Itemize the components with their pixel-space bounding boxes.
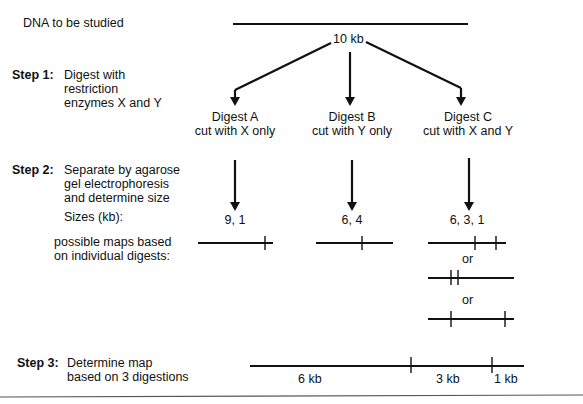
or-label-1: or xyxy=(462,252,473,266)
step-1-line-3: enzymes X and Y xyxy=(64,96,162,110)
digest-a-sizes: 9, 1 xyxy=(205,213,265,227)
sizes-label: Sizes (kb): xyxy=(64,210,123,224)
step-1-line-2: restriction xyxy=(64,82,118,96)
digest-b-sizes: 6, 4 xyxy=(322,213,382,227)
maps-label-line-2: on individual digests: xyxy=(54,249,170,263)
segment-1kb: 1 kb xyxy=(494,372,518,386)
digest-c-desc: cut with X and Y xyxy=(413,124,523,138)
maps-label-line-1: possible maps based xyxy=(54,235,171,249)
step-1-line-1: Digest with xyxy=(64,68,125,82)
dna-label: DNA to be studied xyxy=(23,16,124,30)
segment-3kb: 3 kb xyxy=(436,372,460,386)
step-3-label: Step 3: xyxy=(17,356,59,370)
or-label-2: or xyxy=(462,293,473,307)
step-3-line-1: Determine map xyxy=(67,356,152,370)
step-2-line-1: Separate by agarose xyxy=(64,163,180,177)
step-3-line-2: based on 3 digestions xyxy=(67,370,189,384)
digest-c-name: Digest C xyxy=(413,110,523,124)
segment-6kb: 6 kb xyxy=(298,372,322,386)
digest-b-desc: cut with Y only xyxy=(302,124,402,138)
step-2-label: Step 2: xyxy=(12,163,54,177)
arrow-c-line xyxy=(366,42,461,88)
arrow-a-line xyxy=(235,43,331,90)
dna-length-label: 10 kb xyxy=(333,32,364,46)
digest-b-name: Digest B xyxy=(302,110,402,124)
step-2-line-2: gel electrophoresis xyxy=(64,177,169,191)
step-2-line-3: and determine size xyxy=(64,191,170,205)
step-1-label: Step 1: xyxy=(12,68,54,82)
digest-a-name: Digest A xyxy=(185,110,285,124)
digest-a-desc: cut with X only xyxy=(185,124,285,138)
digest-c-sizes: 6, 3, 1 xyxy=(437,213,497,227)
